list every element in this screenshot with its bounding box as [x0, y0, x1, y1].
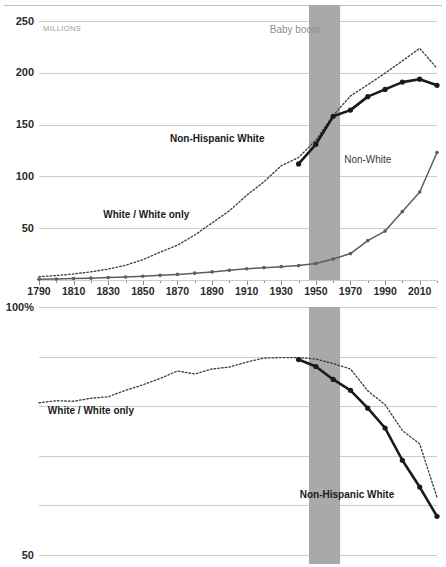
data-point — [124, 275, 128, 279]
data-point — [366, 239, 370, 243]
data-point — [55, 277, 59, 281]
x-tick-label: 1910 — [235, 285, 259, 297]
x-tick-label: 2010 — [408, 285, 432, 297]
data-point — [176, 273, 180, 277]
gridlines — [39, 308, 437, 556]
data-point — [193, 271, 197, 275]
y-tick-label: 150 — [16, 118, 34, 130]
data-point — [314, 262, 318, 266]
data-point — [382, 425, 387, 430]
data-point — [297, 264, 301, 268]
series-annotation: Non-Hispanic White — [300, 489, 395, 500]
x-tick-label: 1930 — [270, 285, 294, 297]
x-tick-label: 1850 — [131, 285, 155, 297]
data-point — [141, 274, 145, 278]
baby-boom-band — [309, 307, 340, 564]
chart-population-share: 50100%White / White onlyNon-Hispanic Whi… — [6, 301, 440, 564]
y-tick-label: 50 — [22, 549, 34, 561]
data-point — [382, 87, 387, 92]
data-point — [210, 270, 214, 274]
data-point — [228, 269, 232, 273]
x-tick-label: 1890 — [200, 285, 224, 297]
data-point — [106, 276, 110, 280]
y-axis-labels: 50100% — [6, 301, 34, 561]
x-tick-label: 1870 — [166, 285, 190, 297]
data-point — [418, 190, 422, 194]
units-label: MILLIONS — [43, 24, 81, 33]
data-point — [331, 257, 335, 261]
x-tick-label: 1970 — [339, 285, 363, 297]
data-point — [349, 252, 353, 256]
data-point — [158, 274, 162, 278]
population-figure: 50100150200250MILLIONS179018101830185018… — [0, 0, 446, 567]
series-line — [39, 358, 437, 498]
data-point — [400, 458, 405, 463]
x-tick-label: 1990 — [373, 285, 397, 297]
data-point — [417, 484, 422, 489]
gridlines — [39, 22, 437, 229]
y-axis-labels: 50100150200250 — [16, 15, 34, 234]
data-point — [37, 277, 41, 281]
data-point — [383, 229, 387, 233]
data-point — [313, 364, 318, 369]
y-tick-label: 250 — [16, 15, 34, 27]
annotations: White / White onlyNon-Hispanic White — [48, 405, 395, 500]
annotations: Baby boomNon-Hispanic WhiteNon-WhiteWhit… — [103, 24, 392, 219]
chart-population-counts: 50100150200250MILLIONS179018101830185018… — [16, 5, 440, 297]
y-tick-label: 100% — [6, 301, 34, 313]
x-tick-label: 1950 — [304, 285, 328, 297]
data-point — [296, 161, 301, 166]
data-point — [331, 114, 336, 119]
data-point — [417, 77, 422, 82]
series-annotation: White / White only — [103, 209, 190, 220]
data-point — [435, 151, 439, 155]
data-point — [400, 80, 405, 85]
data-point — [434, 83, 439, 88]
y-tick-label: 200 — [16, 66, 34, 78]
series-annotation: Baby boom — [270, 24, 321, 35]
x-tick-label: 1830 — [97, 285, 121, 297]
data-point — [313, 142, 318, 147]
data-point — [365, 406, 370, 411]
figure-root: 50100150200250MILLIONS179018101830185018… — [0, 0, 446, 567]
data-point — [348, 388, 353, 393]
series-annotation: White / White only — [48, 405, 135, 416]
data-point — [89, 276, 93, 280]
series-annotation: Non-Hispanic White — [170, 133, 265, 144]
data-point — [401, 210, 405, 214]
series-annotation: Non-White — [344, 154, 392, 165]
data-point — [331, 377, 336, 382]
x-axis: 1790181018301850187018901910193019501970… — [27, 281, 437, 298]
data-point — [262, 266, 266, 270]
series-line — [39, 153, 437, 280]
data-point — [365, 94, 370, 99]
data-point — [245, 267, 249, 271]
x-tick-label: 1810 — [62, 285, 86, 297]
data-point — [348, 108, 353, 113]
x-tick-label: 1790 — [27, 285, 51, 297]
data-point — [72, 277, 76, 281]
data-point — [279, 265, 283, 269]
y-tick-label: 100 — [16, 170, 34, 182]
data-point — [434, 514, 439, 519]
data-point — [296, 357, 301, 362]
y-tick-label: 50 — [22, 222, 34, 234]
